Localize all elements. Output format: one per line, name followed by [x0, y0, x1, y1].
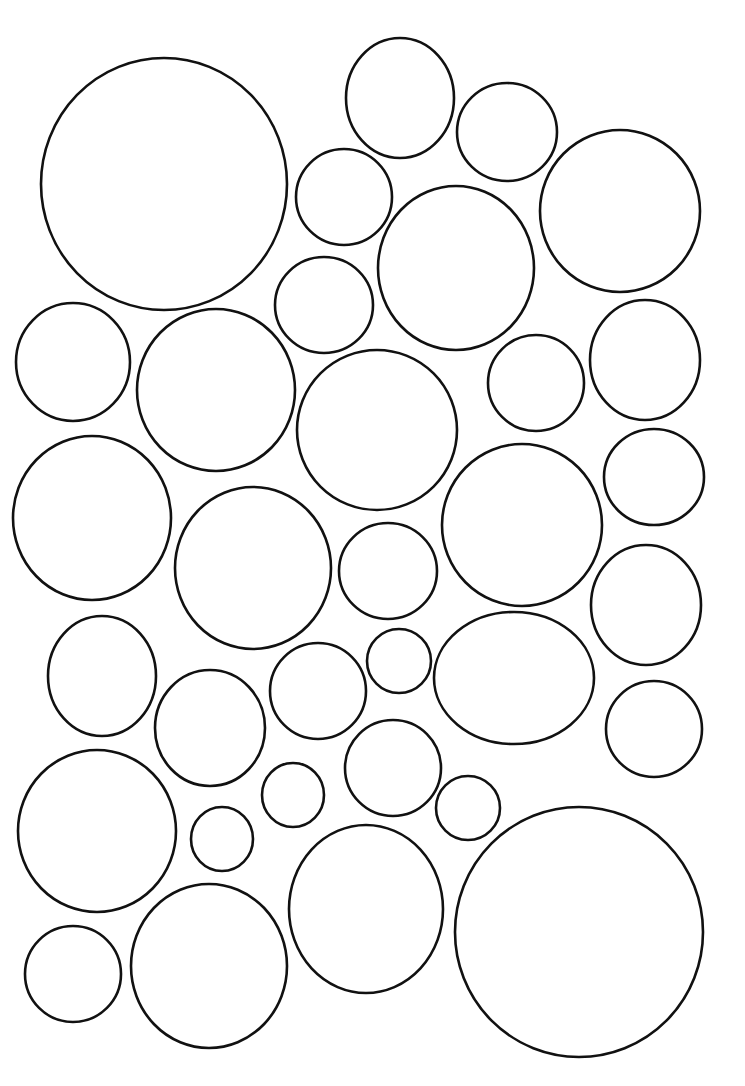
page-background — [0, 0, 745, 1086]
circle-pattern-canvas — [0, 0, 745, 1086]
